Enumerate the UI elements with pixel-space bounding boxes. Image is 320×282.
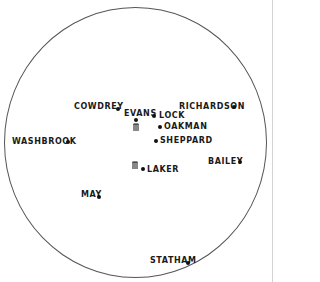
fielder-position-dot-icon — [232, 105, 236, 109]
bowling-end-stumps-icon — [132, 161, 138, 169]
fielder-position-dot-icon — [97, 195, 101, 199]
page-edge-line — [272, 0, 273, 282]
fielder-position-dot-icon — [154, 139, 158, 143]
fielder-position-dot-icon — [238, 160, 242, 164]
fielder-label: LAKER — [147, 166, 179, 174]
fielder-label: LOCK — [159, 112, 185, 120]
fielder-position-dot-icon — [186, 261, 190, 265]
batting-end-stumps-icon — [133, 123, 139, 131]
fielder-position-dot-icon — [141, 167, 145, 171]
fielder-label: SHEPPARD — [160, 137, 213, 145]
fielder-position-dot-icon — [158, 125, 162, 129]
fielder-position-dot-icon — [134, 118, 138, 122]
fielder-position-dot-icon — [66, 140, 70, 144]
fielder-position-dot-icon — [152, 114, 156, 118]
fielder-position-dot-icon — [116, 107, 120, 111]
fielder-label: OAKMAN — [164, 123, 207, 131]
